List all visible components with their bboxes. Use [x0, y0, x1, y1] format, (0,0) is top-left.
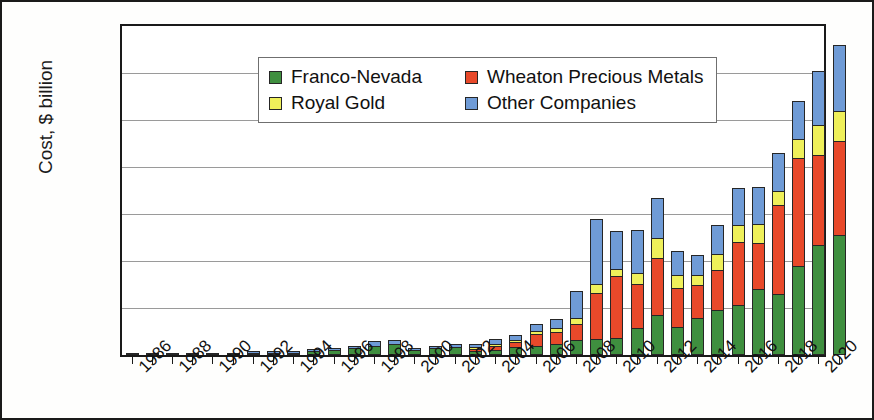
bar-segment — [833, 235, 846, 355]
bar-segment — [792, 158, 805, 266]
bar-segment — [570, 291, 583, 318]
bar-segment — [792, 101, 805, 139]
legend-row: Royal Gold Other Companies — [269, 90, 704, 116]
bar-segment — [752, 187, 765, 224]
bar — [590, 219, 603, 355]
bar-segment — [752, 243, 765, 290]
bar-segment — [671, 275, 684, 288]
legend-row: Franco-Nevada Wheaton Precious Metals — [269, 64, 704, 90]
bar-segment — [651, 258, 664, 315]
bar — [691, 255, 704, 355]
x-axis-tick — [657, 357, 658, 364]
bar-segment — [812, 71, 825, 125]
bar-segment — [651, 198, 664, 238]
bar-segment — [126, 353, 139, 355]
legend-item-royal-gold: Royal Gold — [269, 92, 465, 114]
x-axis-tick — [495, 357, 496, 364]
x-axis-tick — [293, 357, 294, 364]
bar-segment — [711, 254, 724, 270]
bar — [752, 187, 765, 355]
x-axis-tick — [818, 357, 819, 364]
x-axis-tick — [738, 357, 739, 364]
bar-segment — [772, 205, 785, 294]
chart-figure: Cost, $ billion 010203040506070 Franco-N… — [0, 0, 874, 420]
bar-segment — [732, 242, 745, 305]
bar-segment — [711, 225, 724, 255]
legend-item-franco-nevada: Franco-Nevada — [269, 66, 465, 88]
bar-segment — [792, 139, 805, 158]
bar-segment — [651, 238, 664, 257]
bar-segment — [610, 269, 623, 276]
bar-segment — [631, 230, 644, 273]
bar-segment — [732, 225, 745, 241]
legend-item-other-companies: Other Companies — [465, 92, 636, 114]
bar — [792, 101, 805, 355]
legend-swatch-other-companies — [465, 97, 478, 110]
x-axis-tick — [697, 357, 698, 364]
bar — [610, 231, 623, 355]
bar-segment — [691, 285, 704, 318]
bar — [651, 198, 664, 355]
bar — [711, 225, 724, 355]
bar-segment — [691, 275, 704, 285]
bar-segment — [631, 273, 644, 284]
x-axis-tick — [616, 357, 617, 364]
plot-area: Franco-Nevada Wheaton Precious Metals Ro… — [120, 24, 826, 357]
y-axis-title: Cost, $ billion — [35, 0, 57, 257]
bar-segment — [772, 191, 785, 205]
bar — [732, 188, 745, 355]
bar-segment — [610, 276, 623, 338]
bar-segment — [570, 324, 583, 340]
legend-label-franco-nevada: Franco-Nevada — [291, 66, 422, 88]
bar-segment — [812, 245, 825, 355]
bar-segment — [671, 251, 684, 275]
x-axis-tick — [374, 357, 375, 364]
legend-swatch-wheaton-precious-metals — [465, 71, 478, 84]
gridline — [122, 167, 824, 168]
bar-segment — [732, 188, 745, 226]
bar-segment — [590, 219, 603, 284]
bar-segment — [711, 270, 724, 309]
legend: Franco-Nevada Wheaton Precious Metals Ro… — [258, 57, 717, 123]
bar-segment — [812, 125, 825, 156]
bar-segment — [610, 231, 623, 269]
bar-segment — [833, 141, 846, 235]
x-axis-tick — [253, 357, 254, 364]
bar-segment — [631, 284, 644, 328]
bar-segment — [833, 111, 846, 142]
bar-segment — [590, 284, 603, 293]
bar — [833, 45, 846, 355]
legend-item-wheaton-precious-metals: Wheaton Precious Metals — [465, 66, 704, 88]
x-axis-tick — [414, 357, 415, 364]
x-axis-tick-label: 2020 — [821, 336, 862, 377]
bar — [812, 71, 825, 355]
legend-label-royal-gold: Royal Gold — [291, 92, 385, 114]
bar — [772, 153, 785, 355]
bar-segment — [691, 255, 704, 275]
bar-segment — [671, 288, 684, 327]
x-axis-tick — [455, 357, 456, 364]
bar-segment — [550, 319, 563, 328]
x-axis-tick — [132, 357, 133, 364]
gridline — [122, 214, 824, 215]
x-axis-tick — [576, 357, 577, 364]
bar-segment — [833, 45, 846, 111]
bar — [631, 230, 644, 355]
legend-swatch-franco-nevada — [269, 71, 282, 84]
legend-label-other-companies: Other Companies — [487, 92, 636, 114]
legend-swatch-royal-gold — [269, 97, 282, 110]
bar-segment — [812, 155, 825, 244]
bar-segment — [752, 224, 765, 243]
legend-label-wheaton-precious-metals: Wheaton Precious Metals — [487, 66, 704, 88]
bar — [126, 353, 139, 355]
x-axis-tick — [334, 357, 335, 364]
x-axis-tick — [212, 357, 213, 364]
bar-segment — [772, 153, 785, 191]
x-axis-tick — [536, 357, 537, 364]
x-axis-tick — [778, 357, 779, 364]
x-axis-tick — [172, 357, 173, 364]
bar-segment — [590, 293, 603, 339]
